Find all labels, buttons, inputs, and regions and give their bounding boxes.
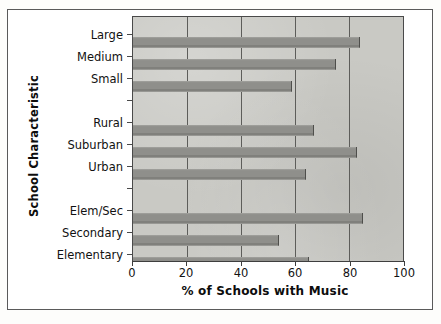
bar-small [133, 81, 292, 92]
bar-elem-sec [133, 213, 363, 224]
bar-rural [133, 125, 314, 136]
gridline-40 [241, 17, 242, 261]
x-axis-line [132, 261, 405, 262]
y-tick-label-small: Small [18, 73, 123, 85]
chart-figure: School Characteristic Large Medium Small… [0, 0, 441, 324]
y-tick-label-secondary: Secondary [18, 227, 123, 239]
bar-medium [133, 59, 336, 70]
plot-area [132, 16, 404, 262]
x-tick-label-80: 80 [330, 266, 370, 280]
y-tick-label-rural: Rural [18, 117, 123, 129]
x-tick-label-40: 40 [221, 266, 261, 280]
y-tick-label-suburban: Suburban [18, 139, 123, 151]
y-tick-label-medium: Medium [18, 51, 123, 63]
y-tick-label-elem-sec: Elem/Sec [18, 205, 123, 217]
plot-paper-texture [133, 17, 403, 261]
x-tick-label-60: 60 [275, 266, 315, 280]
bar-large [133, 37, 360, 48]
bar-suburban [133, 147, 357, 158]
x-tick-label-20: 20 [166, 266, 206, 280]
bar-secondary [133, 235, 279, 246]
gridline-80 [349, 17, 350, 261]
x-axis-title: % of Schools with Music [100, 284, 430, 298]
y-tick-label-large: Large [18, 29, 123, 41]
gridline-60 [295, 17, 296, 261]
x-tick-label-0: 0 [112, 266, 152, 280]
y-axis-tick-labels: Large Medium Small Rural Suburban Urban … [22, 12, 127, 262]
y-tick-label-elementary: Elementary [18, 249, 123, 261]
y-tick-label-urban: Urban [18, 161, 123, 173]
x-tick-label-100: 100 [384, 266, 424, 280]
gridline-20 [187, 17, 188, 261]
bar-urban [133, 169, 306, 180]
